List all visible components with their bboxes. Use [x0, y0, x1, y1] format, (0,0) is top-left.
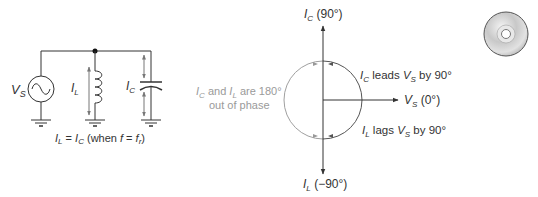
resonance-diagram: VS IL IC IL = IC (when f = fr) IC (90°) …: [0, 0, 538, 197]
il-lags-label: IL lags VS by 90°: [362, 124, 446, 139]
ground-icon: [85, 120, 105, 126]
ic-leads-label: IC leads VS by 90°: [360, 69, 452, 84]
resonance-caption: IL = IC (when f = fr): [55, 132, 145, 146]
phase-note-line2: out of phase: [209, 99, 270, 111]
arc-arrowhead: [313, 62, 318, 66]
vs-0-label: VS (0°): [404, 93, 440, 109]
sine-wave-icon: [32, 84, 50, 95]
parallel-lc-circuit: [28, 49, 162, 127]
arc-arrowhead: [313, 134, 318, 138]
phase-note-line1: IC and IL are 180°: [196, 85, 282, 100]
ground-icon: [31, 120, 51, 126]
source-label: VS: [11, 82, 26, 99]
il-minus90-label: IL (−90°): [303, 177, 347, 193]
capacitor-current-label: IC: [126, 79, 135, 95]
phasor-diagram: [284, 26, 398, 174]
arc-arrowhead: [328, 134, 333, 138]
cd-disc-icon[interactable]: [484, 12, 528, 56]
phase-arc-left: [284, 61, 323, 139]
ground-icon: [141, 120, 161, 126]
arc-arrowhead: [328, 62, 333, 66]
inductor-coil-icon: [95, 71, 102, 103]
ic-90-label: IC (90°): [304, 7, 343, 23]
inductor-current-label: IL: [71, 81, 79, 97]
